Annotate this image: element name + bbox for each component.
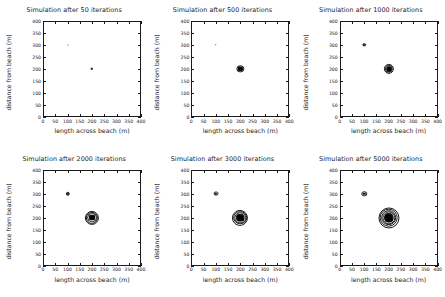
y-tick: [340, 170, 343, 171]
x-tick-label: 250: [397, 267, 406, 272]
x-tick: [364, 21, 365, 24]
x-tick: [413, 263, 414, 266]
x-tick-label: 250: [248, 267, 257, 272]
plot-area: 0501001502002503003504000501001502002503…: [340, 21, 438, 117]
x-tick: [68, 170, 69, 173]
x-tick-label: 100: [360, 119, 369, 124]
simulation-panel: Simulation after 50 iterations0501001502…: [0, 0, 148, 149]
y-tick: [435, 21, 438, 22]
y-tick: [138, 206, 141, 207]
x-tick-label: 50: [201, 267, 207, 272]
x-tick-label: 250: [248, 119, 257, 124]
x-tick: [68, 114, 69, 117]
x-tick: [401, 114, 402, 117]
x-tick-label: 50: [52, 119, 58, 124]
x-tick: [352, 21, 353, 24]
x-tick: [289, 114, 290, 117]
y-tick-label: 0: [335, 115, 338, 120]
x-tick: [364, 170, 365, 173]
x-tick: [240, 114, 241, 117]
x-tick: [104, 21, 105, 24]
y-tick: [43, 117, 46, 118]
x-tick: [438, 263, 439, 266]
y-tick-label: 400: [32, 167, 41, 172]
y-tick-label: 350: [181, 31, 190, 36]
y-tick: [191, 117, 194, 118]
x-tick: [413, 114, 414, 117]
y-tick: [286, 218, 289, 219]
y-tick-label: 150: [329, 227, 338, 232]
y-tick: [340, 45, 343, 46]
y-tick: [286, 170, 289, 171]
x-tick: [228, 263, 229, 266]
y-tick-label: 200: [181, 67, 190, 72]
plume-core: [363, 44, 365, 46]
y-tick: [191, 194, 194, 195]
y-tick: [340, 81, 343, 82]
y-tick-label: 0: [335, 263, 338, 268]
y-tick: [340, 93, 343, 94]
y-tick: [138, 45, 141, 46]
x-tick: [376, 21, 377, 24]
x-tick: [204, 263, 205, 266]
y-tick: [435, 117, 438, 118]
x-tick-label: 300: [260, 119, 269, 124]
y-tick: [340, 266, 343, 267]
y-tick-label: 200: [329, 215, 338, 220]
y-tick-label: 50: [35, 251, 41, 256]
x-tick: [376, 114, 377, 117]
x-tick: [141, 263, 142, 266]
x-tick-label: 150: [372, 267, 381, 272]
x-tick: [277, 263, 278, 266]
x-tick: [80, 170, 81, 173]
x-tick: [104, 263, 105, 266]
x-tick: [80, 263, 81, 266]
x-tick-label: 50: [349, 119, 355, 124]
y-tick-label: 250: [181, 203, 190, 208]
x-tick: [364, 263, 365, 266]
x-tick-label: 250: [100, 119, 109, 124]
y-tick: [138, 254, 141, 255]
y-tick-label: 100: [181, 91, 190, 96]
y-tick: [435, 266, 438, 267]
y-tick-label: 250: [32, 203, 41, 208]
x-tick: [277, 21, 278, 24]
y-tick: [43, 81, 46, 82]
y-tick: [435, 182, 438, 183]
plume-core: [91, 68, 93, 70]
plume-core: [363, 192, 365, 194]
x-tick: [216, 114, 217, 117]
y-tick-label: 100: [329, 239, 338, 244]
plot-area: 0501001502002503003504000501001502002503…: [191, 21, 289, 117]
x-tick: [68, 263, 69, 266]
x-tick: [55, 170, 56, 173]
y-tick-label: 150: [181, 227, 190, 232]
y-tick: [286, 117, 289, 118]
y-tick: [340, 206, 343, 207]
x-tick-label: 150: [224, 119, 233, 124]
y-tick: [138, 57, 141, 58]
y-tick-label: 400: [329, 167, 338, 172]
y-tick-label: 200: [32, 215, 41, 220]
y-tick: [435, 69, 438, 70]
y-axis-title: distance from beach (m): [5, 34, 12, 110]
x-tick-label: 50: [349, 267, 355, 272]
y-tick: [138, 93, 141, 94]
y-tick-label: 250: [32, 55, 41, 60]
x-tick: [376, 170, 377, 173]
x-tick: [401, 170, 402, 173]
x-tick-label: 350: [124, 267, 133, 272]
x-tick: [389, 170, 390, 173]
plume-core: [89, 214, 96, 221]
y-axis-title: distance from beach (m): [153, 34, 160, 110]
plot-area: 0501001502002503003504000501001502002503…: [43, 21, 141, 117]
x-tick-label: 300: [409, 119, 418, 124]
x-tick-label: 400: [433, 267, 442, 272]
x-tick: [68, 21, 69, 24]
x-tick: [117, 263, 118, 266]
y-tick: [286, 33, 289, 34]
y-tick: [191, 182, 194, 183]
x-tick-label: 200: [88, 267, 97, 272]
y-tick: [435, 194, 438, 195]
panel-title: Simulation after 3000 iterations: [148, 155, 296, 163]
